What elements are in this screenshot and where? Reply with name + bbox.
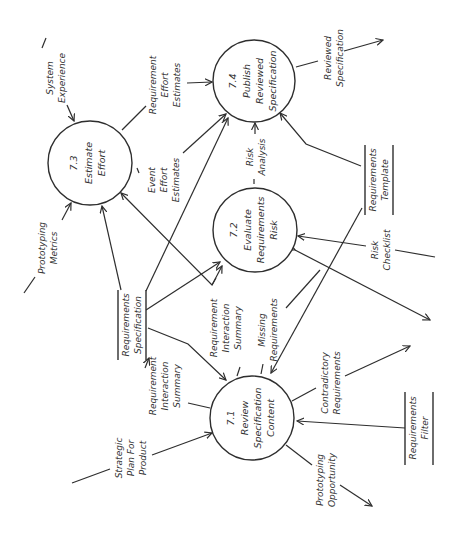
flow-label-line: Opportunity — [327, 452, 337, 507]
flow-line-contradictory-out — [292, 388, 316, 401]
flow-arrow-event-effort — [183, 114, 226, 153]
flow-label-strategic-plan: Strategic Plan For Product — [114, 438, 148, 479]
flow-tick-missing-req — [261, 364, 263, 374]
flow-label-reviewed-specification: Reviewed Specification — [323, 29, 345, 87]
flow-arrow-contradictory — [345, 346, 410, 376]
flow-label-line: Requirements — [269, 298, 279, 361]
flow-label-req-interaction-summary-b: Requirement Interaction Summary — [209, 298, 243, 357]
process-label-line: Review — [239, 401, 250, 436]
flow-line-reviewed-spec-out — [296, 61, 318, 67]
process-label-line: Specification — [267, 50, 278, 111]
flow-arrow-7-2-external — [295, 250, 430, 320]
flow-label-line: Experience — [57, 52, 67, 103]
flow-tick-event-effort — [137, 168, 139, 173]
flow-arrow-req-effort-in — [187, 82, 212, 83]
flow-label-line: Estimates — [172, 62, 182, 107]
flow-label-line: System — [45, 61, 55, 95]
process-7-1[interactable]: 7.1 Review Specification Content — [210, 376, 294, 460]
process-number-7-2: 7.2 — [228, 222, 239, 237]
flow-line-missing-req — [286, 270, 320, 308]
flow-label-line: Risk — [245, 147, 255, 166]
store-label-line: Filter — [420, 415, 430, 439]
flow-label-prototyping-opportunity: Prototyping Opportunity — [315, 452, 337, 507]
flow-label-line: Product — [138, 440, 148, 475]
flow-label-line: Checklist — [382, 229, 392, 270]
flow-label-line: Requirement — [209, 298, 219, 357]
flow-label-line: Contradictory — [320, 352, 330, 414]
data-flow-diagram: 7.3 Estimate Effort 7.4 Publish Reviewed… — [0, 0, 462, 542]
flow-line-prototyping-opp-out — [286, 445, 312, 465]
flow-label-line: Reviewed — [323, 36, 333, 80]
process-7-2[interactable]: 7.2 Evaluate Requirements Risk — [213, 188, 297, 272]
flow-arrow-prototyping-metrics — [62, 203, 71, 220]
flow-label-line: Interaction — [160, 361, 170, 410]
flow-label-line: Event — [147, 167, 157, 193]
flow-label-line: Requirements — [332, 351, 342, 414]
flow-label-line: Effort — [160, 72, 170, 97]
flow-label-line: Effort — [159, 167, 169, 192]
flow-label-line: Prototyping — [315, 454, 325, 506]
flow-line-interaction-out — [188, 403, 210, 408]
flow-arrow-strategic-plan — [152, 433, 212, 455]
flow-line-req-effort-out — [122, 106, 146, 130]
flow-arrow-interaction-to-7-3 — [121, 193, 216, 285]
store-requirements-specification[interactable]: Requirements Specification — [118, 290, 146, 360]
store-label-line: Requirements — [408, 396, 418, 459]
flow-label-event-effort-estimates: Event Effort Estimates — [147, 157, 181, 202]
flow-line-system-experience-tail — [42, 38, 46, 48]
flow-label-risk-analysis: Risk Analysis — [245, 138, 267, 176]
flow-label-line: Estimates — [171, 157, 181, 202]
flow-label-risk-checklist: Risk Checklist — [370, 229, 392, 270]
flow-label-missing-requirements: Missing Requirements — [257, 298, 279, 361]
process-label-line: Estimate — [83, 142, 94, 184]
flow-arrow-spec-to-7-3 — [102, 206, 121, 290]
flow-arrow-reviewed-spec — [344, 40, 383, 51]
flow-label-contradictory-requirements: Contradictory Requirements — [320, 351, 342, 414]
store-label-line: Requirements — [368, 148, 378, 211]
flow-label-line: Plan For — [126, 439, 136, 477]
flow-arrow-prototyping-opp — [340, 485, 372, 506]
process-label-line: Specification — [252, 387, 263, 448]
flow-label-line: Strategic — [114, 438, 124, 479]
process-label-line: Content — [265, 398, 276, 437]
flow-tick-interaction-b — [237, 367, 240, 376]
flow-line-strategic-plan-tail — [72, 469, 110, 483]
flow-label-line: Interaction — [221, 303, 231, 352]
process-label-line: Publish — [241, 64, 252, 98]
flow-label-line: Missing — [257, 313, 267, 347]
flow-label-system-experience: System Experience — [45, 52, 67, 103]
flow-label-line: Risk — [370, 240, 380, 259]
flow-label-line: Metrics — [49, 231, 59, 264]
flow-arrow-interaction-to-7-2 — [212, 266, 222, 285]
flow-line-risk-checklist-tail — [395, 250, 435, 257]
flow-label-line: Analysis — [257, 138, 267, 176]
process-number-7-4: 7.4 — [227, 73, 238, 88]
store-label-line: Template — [380, 159, 390, 201]
flow-label-line: Requirement — [148, 55, 158, 114]
process-7-4[interactable]: 7.4 Publish Reviewed Specification — [213, 40, 295, 122]
flow-label-line: Summary — [233, 306, 243, 350]
flow-label-req-interaction-summary-a: Requirement Interaction Summary — [148, 356, 182, 415]
process-label-line: Evaluate — [242, 209, 253, 251]
process-number-7-1: 7.1 — [225, 410, 236, 425]
flow-label-prototyping-metrics: Prototyping Metrics — [37, 222, 59, 274]
process-label-line: Effort — [96, 149, 107, 177]
flow-arrow-system-experience — [67, 105, 74, 121]
flow-line-prototyping-metrics-tail — [24, 277, 35, 293]
flow-label-req-effort-estimates: Requirement Effort Estimates — [148, 55, 182, 114]
store-requirements-filter[interactable]: Requirements Filter — [405, 392, 433, 465]
process-label-line: Requirements — [255, 197, 266, 264]
flow-arrow-template-to-7-4 — [280, 113, 361, 166]
flow-arrow-filter-to-7-1 — [297, 421, 405, 428]
flow-arrow-risk-checklist — [298, 236, 366, 246]
store-label-line: Requirements — [121, 293, 131, 356]
process-number-7-3: 7.3 — [68, 155, 79, 170]
flow-label-line: Prototyping — [37, 222, 47, 274]
store-label-line: Specification — [133, 296, 143, 354]
process-7-3[interactable]: 7.3 Estimate Effort — [48, 121, 132, 205]
process-label-line: Risk — [268, 220, 279, 240]
flow-label-line: Specification — [335, 29, 345, 87]
process-label-line: Reviewed — [254, 57, 265, 104]
flow-label-line: Summary — [172, 364, 182, 408]
store-requirements-template[interactable]: Requirements Template — [365, 145, 393, 215]
